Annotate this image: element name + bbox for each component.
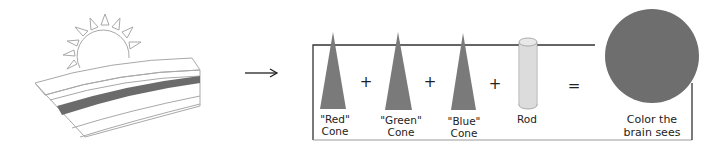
green-cone-label: "Green" Cone (380, 114, 421, 138)
label-line: Color the (624, 113, 681, 126)
label-line: Rod (517, 113, 537, 125)
plus-sign-1: + (360, 73, 373, 91)
right-arrow-icon (245, 69, 277, 77)
label-line: "Green" (380, 114, 421, 126)
result-color-circle (605, 9, 699, 103)
label-line: "Blue" (448, 115, 481, 127)
label-line: Cone (380, 126, 421, 138)
rod-icon (519, 38, 537, 109)
plus-sign-2: + (424, 73, 437, 91)
equals-sign: = (568, 77, 581, 95)
result-label: Color the brain sees (624, 113, 681, 139)
red-cone-icon (320, 32, 346, 109)
sun-over-field-icon (35, 14, 200, 137)
rod-label: Rod (517, 113, 537, 125)
label-line: brain sees (624, 126, 681, 139)
red-cone-label: "Red" Cone (320, 113, 350, 137)
label-line: "Red" (320, 113, 350, 125)
label-line: Cone (448, 127, 481, 139)
label-line: Cone (320, 125, 350, 137)
green-cone-icon (385, 32, 412, 110)
plus-sign-3: + (489, 75, 502, 93)
sun-disc (77, 30, 129, 68)
blue-cone-label: "Blue" Cone (448, 115, 481, 139)
